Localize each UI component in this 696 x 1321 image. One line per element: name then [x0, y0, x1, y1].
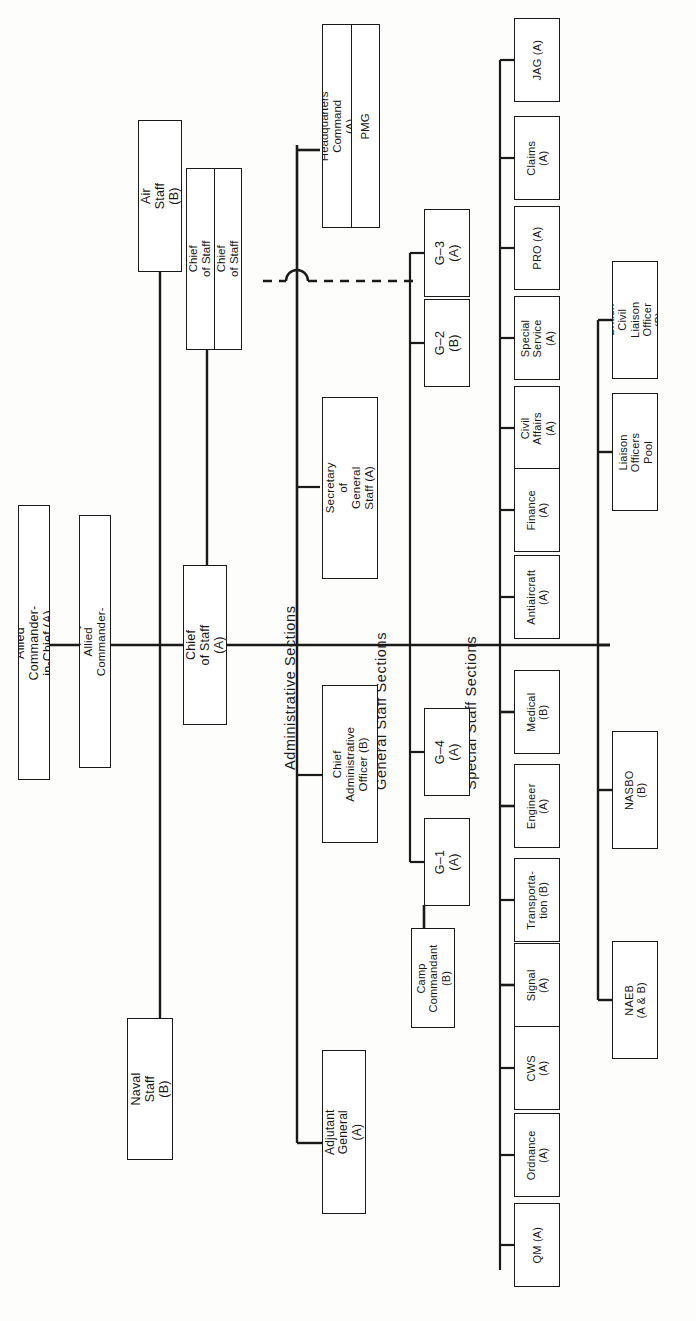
- node-label: Adjutant General (A): [324, 1109, 364, 1155]
- node-transportation[interactable]: Transporta- tion (B): [514, 858, 560, 942]
- node-secretary-of-general-staff[interactable]: Secretary of General Staff (A): [322, 397, 378, 579]
- node-label: Air Staff (B): [139, 175, 181, 217]
- node-label: Special Service (A): [519, 316, 556, 360]
- node-label: G–4 (A): [433, 730, 461, 774]
- node-chief-administrative-officer[interactable]: Chief Administrative Officer (B): [322, 685, 378, 843]
- node-civil-affairs[interactable]: Civil Affairs (A): [514, 386, 560, 470]
- org-chart-canvas: Administrative Sections General Staff Se…: [0, 0, 696, 1321]
- node-label: JAG (A): [531, 38, 543, 82]
- node-special-service[interactable]: Special Service (A): [514, 296, 560, 380]
- node-label: QM (A): [531, 1223, 543, 1267]
- node-label: Camp Commandant (B): [415, 944, 452, 1012]
- node-qm[interactable]: QM (A): [514, 1203, 560, 1287]
- node-label: G–3 (A): [433, 231, 461, 275]
- node-adjutant-general[interactable]: Adjutant General (A): [322, 1050, 366, 1214]
- node-label: Headquarters Command (A): [323, 91, 351, 161]
- section-label-administrative: Administrative Sections: [282, 606, 298, 771]
- node-label: Deputy Allied Commander-in-Chief (A): [79, 607, 111, 676]
- node-deputy-chief-of-staff-group[interactable]: Deputy Chief of Staff (A) Deputy Chief o…: [186, 168, 242, 350]
- node-deputy-allied-commander-in-chief[interactable]: Deputy Allied Commander-in-Chief (A): [79, 515, 111, 768]
- node-british-civil-liaison-officer[interactable]: British Civil Liaison Officer (B): [612, 261, 658, 379]
- node-label: Chief of Staff (A): [184, 624, 226, 666]
- node-deputy-chief-of-staff-b[interactable]: Deputy Chief of Staff (B): [214, 169, 242, 349]
- node-ordnance[interactable]: Ordnance (A): [514, 1113, 560, 1197]
- node-signal[interactable]: Signal (A): [514, 943, 560, 1027]
- node-label: Engineer (A): [525, 783, 550, 829]
- node-label: Deputy Chief of Staff (A): [187, 241, 214, 277]
- node-label: NAEB (A & B): [623, 978, 648, 1022]
- node-finance[interactable]: Finance (A): [514, 468, 560, 552]
- node-headquarters-command-group[interactable]: Headquarters Command (A) PMG: [322, 24, 380, 228]
- node-label: PMG: [359, 112, 372, 140]
- node-label: Secretary of General Staff (A): [324, 461, 376, 515]
- node-label: Finance (A): [525, 488, 550, 532]
- node-liaison-officers-pool[interactable]: Liaison Officers Pool: [612, 393, 658, 511]
- node-label: Chief Administrative Officer (B): [331, 726, 370, 801]
- node-air-staff[interactable]: Air Staff (B): [138, 120, 182, 272]
- node-label: British Civil Liaison Officer (B): [612, 298, 658, 342]
- node-nasbo[interactable]: NASBO (B): [612, 731, 658, 849]
- node-label: Deputy Chief of Staff (B): [214, 241, 242, 277]
- node-label: NASBO (B): [623, 768, 648, 812]
- node-allied-commander-in-chief[interactable]: Allied Commander-in-Chief (A): [18, 505, 50, 780]
- node-jag[interactable]: JAG (A): [514, 18, 560, 102]
- node-medical[interactable]: Medical (B): [514, 670, 560, 754]
- node-pro[interactable]: PRO (A): [514, 206, 560, 290]
- node-label: Naval Staff (B): [129, 1067, 171, 1111]
- node-g4[interactable]: G–4 (A): [424, 708, 470, 796]
- node-g2[interactable]: G–2 (B): [424, 299, 470, 387]
- node-naval-staff[interactable]: Naval Staff (B): [127, 1018, 173, 1160]
- node-label: Signal (A): [525, 963, 550, 1007]
- node-label: Ordnance (A): [525, 1130, 550, 1180]
- node-label: Antiaircraft (A): [525, 570, 550, 625]
- node-label: Claims (A): [525, 136, 550, 180]
- node-cws[interactable]: CWS (A): [514, 1026, 560, 1110]
- node-pmg[interactable]: PMG: [351, 25, 380, 227]
- node-label: Allied Commander-in-Chief (A): [18, 605, 50, 680]
- node-deputy-chief-of-staff-a[interactable]: Deputy Chief of Staff (A): [187, 169, 214, 349]
- node-label: Medical (B): [525, 690, 550, 734]
- node-label: Transporta- tion (B): [525, 871, 550, 930]
- node-label: Liaison Officers Pool: [617, 430, 654, 474]
- node-label: G–2 (B): [433, 321, 461, 365]
- node-engineer[interactable]: Engineer (A): [514, 764, 560, 848]
- node-label: PRO (A): [531, 226, 543, 270]
- node-claims[interactable]: Claims (A): [514, 116, 560, 200]
- node-camp-commandant[interactable]: Camp Commandant (B): [411, 928, 455, 1028]
- node-g1[interactable]: G–1 (A): [424, 818, 470, 906]
- node-g3[interactable]: G–3 (A): [424, 209, 470, 297]
- node-label: Civil Affairs (A): [519, 406, 556, 450]
- node-label: G–1 (A): [433, 840, 461, 884]
- node-naeb[interactable]: NAEB (A & B): [612, 941, 658, 1059]
- node-antiaircraft[interactable]: Antiaircraft (A): [514, 555, 560, 639]
- node-chief-of-staff[interactable]: Chief of Staff (A): [183, 565, 227, 725]
- node-label: CWS (A): [525, 1046, 550, 1090]
- node-headquarters-command[interactable]: Headquarters Command (A): [323, 25, 351, 227]
